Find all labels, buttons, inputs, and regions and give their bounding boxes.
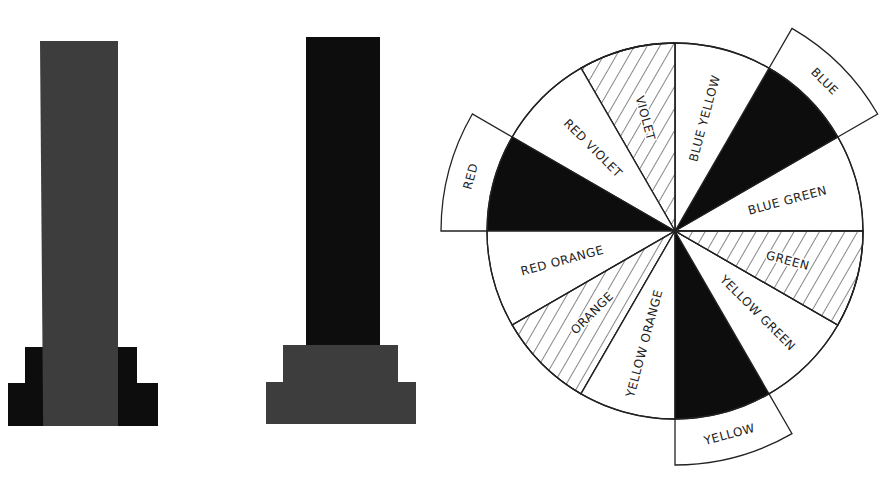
color-wheel: BLUE GREENBLUEBLUE YELLOWVIOLETRED VIOLE…: [0, 0, 887, 480]
